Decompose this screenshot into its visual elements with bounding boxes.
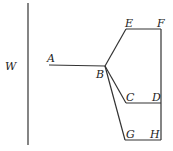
segment-bc — [105, 66, 126, 103]
label-e: E — [124, 17, 133, 30]
label-g: G — [126, 128, 135, 141]
segment-ab — [49, 65, 105, 66]
label-d: D — [151, 91, 161, 104]
segment-be — [105, 29, 126, 66]
label-h: H — [149, 128, 160, 141]
label-c: C — [126, 91, 135, 104]
label-a: A — [46, 52, 55, 65]
label-f: F — [156, 17, 165, 30]
segment-bg — [105, 66, 125, 140]
label-w: W — [5, 60, 18, 73]
diagram-canvas: W A B E F C D G H — [0, 0, 173, 151]
label-b: B — [95, 68, 104, 81]
